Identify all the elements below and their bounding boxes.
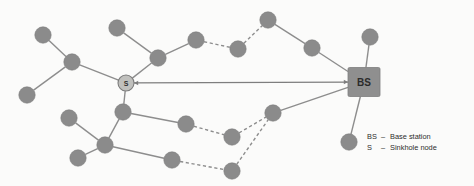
sensor-node[interactable] [35,27,51,43]
edge-n5-n6 [165,44,188,55]
legend-key-bs: BS [367,131,381,142]
edge-n3-n2 [34,67,66,90]
arrow-head-icon [344,80,348,84]
arrow-head-icon [134,81,138,85]
sinkhole-label: S [124,80,129,87]
sensor-node[interactable] [341,134,357,150]
sensor-node[interactable] [260,12,276,28]
sensor-node[interactable] [64,54,80,70]
sensor-node[interactable] [61,110,77,126]
sensor-node[interactable] [115,104,131,120]
edge-n15-n16 [194,126,224,135]
sensor-node[interactable] [70,150,86,166]
edge-n11-n13 [109,119,119,138]
network-graph-canvas: SBS [0,0,474,186]
sensor-node[interactable] [109,20,125,36]
edge-n19-n17 [237,120,269,165]
sensor-node[interactable] [265,105,281,121]
edge-sinkhole-base-station [134,82,348,83]
sensor-node[interactable] [178,116,194,132]
edge-n20-bs [351,97,360,135]
legend-dash-s: – [381,142,390,153]
edge-n13-n14 [85,149,97,155]
sensor-node[interactable] [19,87,35,103]
legend-dash-bs: – [381,131,390,142]
base-station-label: BS [357,77,371,88]
legend: BS – Base station S – Sinkhole node [367,131,437,153]
edge-n11-n15 [131,114,178,123]
edge-n4-n5 [124,33,152,53]
legend-text-base-station: Base station [390,131,431,142]
legend-item-base-station: BS – Base station [367,131,437,142]
edge-n16-n17 [239,117,266,133]
edge-n6-n7 [204,42,230,48]
sensor-node[interactable] [224,129,240,145]
sensor-node[interactable] [164,152,180,168]
sensor-node[interactable] [188,32,204,48]
edge-n5-s [132,63,151,78]
legend-key-s: S [367,142,381,153]
legend-item-sinkhole: S – Sinkhole node [367,142,437,153]
edge-s-n11 [124,91,125,104]
sinkhole-node[interactable]: S [118,75,134,91]
base-station-node[interactable]: BS [348,68,380,97]
edge-n7-n8 [244,26,262,44]
sensor-node[interactable] [150,50,166,66]
edge-n10-bs [366,45,369,67]
sensor-node[interactable] [304,40,320,56]
edge-n18-n19 [180,161,224,169]
sensor-node[interactable] [230,41,246,57]
edge-n2-s [80,65,119,80]
sensor-node[interactable] [362,29,378,45]
edge-n12-n13 [76,123,99,140]
edge-n17-bs [281,87,348,110]
sensor-node[interactable] [224,163,240,179]
sinkhole-to-base-arrow-layer [134,80,348,85]
legend-text-sinkhole-node: Sinkhole node [390,142,437,153]
edge-n8-n9 [275,24,305,43]
network-diagram: SBS BS – Base station S – Sinkhole node [0,0,474,186]
edge-n13-n18 [113,147,164,158]
edge-n1-n2 [49,41,66,57]
sensor-node[interactable] [97,137,113,153]
edge-n9-bs [319,52,348,71]
